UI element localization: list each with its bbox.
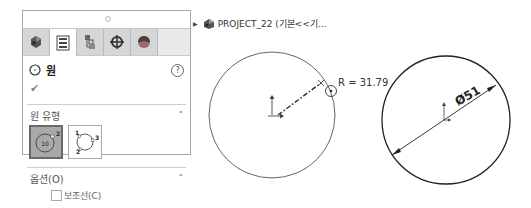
right-sketch-circle[interactable] (382, 56, 510, 184)
left-sketch-circle[interactable] (209, 52, 337, 178)
radius-label: R = 31.79 (338, 77, 388, 88)
graphics-area[interactable]: R = 31.79 Ø51 (0, 0, 531, 208)
diameter-label[interactable]: Ø51 (453, 83, 483, 109)
